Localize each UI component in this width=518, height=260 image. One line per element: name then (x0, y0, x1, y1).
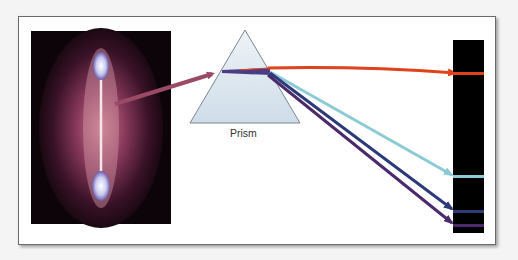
violet-ray (268, 75, 452, 223)
cyan-line (453, 175, 484, 178)
blue-ray (270, 73, 452, 209)
violet-line (453, 224, 484, 227)
red-ray (268, 68, 456, 73)
red-line (453, 72, 484, 75)
bottom-electrode (92, 171, 110, 201)
diagram-canvas (0, 0, 518, 260)
discharge-tube-image (31, 28, 171, 228)
prism-label: Prism (230, 127, 257, 139)
blue-line (453, 210, 484, 213)
top-electrode (93, 52, 109, 80)
emission-spectrum (453, 40, 484, 233)
